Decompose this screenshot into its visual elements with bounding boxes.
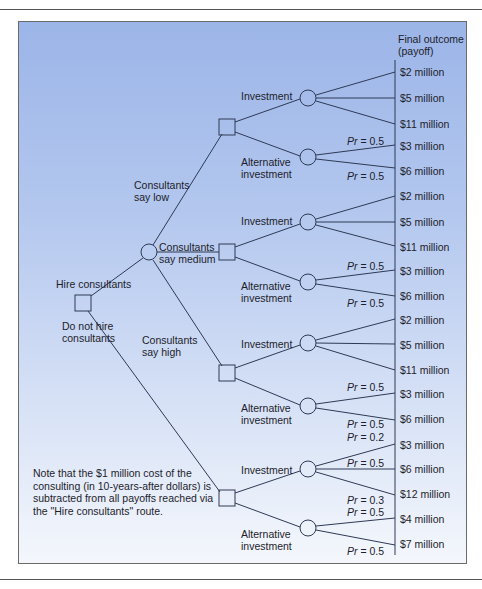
label-investment-high: Investment <box>241 338 292 350</box>
prob-low-alt-up: Pr = 0.5 <box>347 135 384 147</box>
outcome: $3 million <box>400 265 444 277</box>
chance-node-nohire-inv <box>300 461 316 477</box>
bottom-rule <box>0 579 482 580</box>
outcome: $6 million <box>400 413 444 425</box>
prob-nohire-inv-2: Pr = 0.5 <box>347 457 384 469</box>
chance-node-nohire-alt <box>300 520 316 536</box>
chance-node-med-alt <box>300 274 316 290</box>
label-alternative-high: Alternative investment <box>241 402 301 426</box>
outcome: $2 million <box>400 314 444 326</box>
prob-low-alt-down: Pr = 0.5 <box>347 170 384 182</box>
prob-med-alt-up: Pr = 0.5 <box>347 260 384 272</box>
outcome: $5 million <box>400 216 444 228</box>
label-hire-consultants: Hire consultants <box>56 278 131 290</box>
outcome: $5 million <box>400 339 444 351</box>
prob-high-alt-up: Pr = 0.5 <box>347 381 384 393</box>
outcome: $2 million <box>400 66 444 78</box>
chance-node-med-inv <box>300 214 316 230</box>
cost-note: Note that the $1 million cost of the con… <box>33 467 223 517</box>
outcome: $6 million <box>400 165 444 177</box>
outcome-header-subtitle: (payoff) <box>398 45 433 57</box>
outcome: $11 million <box>400 118 449 130</box>
outcome: $11 million <box>400 364 449 376</box>
outcome: $3 million <box>400 140 444 152</box>
outcome: $3 million <box>400 388 444 400</box>
outcome: $5 million <box>400 92 444 104</box>
label-do-not-hire: Do not hire consultants <box>62 320 132 344</box>
outcome: $6 million <box>400 463 444 475</box>
label-alternative-medium: Alternative investment <box>241 280 301 304</box>
outcome-header-title: Final outcome <box>398 33 464 45</box>
chance-node-low-inv <box>300 90 316 106</box>
outcome: $11 million <box>400 241 449 253</box>
outcome: $6 million <box>400 290 444 302</box>
label-investment-medium: Investment <box>241 215 292 227</box>
outcome: $4 million <box>400 513 444 525</box>
chance-node-low-alt <box>300 149 316 165</box>
prob-nohire-inv-1: Pr = 0.2 <box>347 431 384 443</box>
prob-nohire-alt-down: Pr = 0.5 <box>347 545 384 557</box>
prob-nohire-inv-3: Pr = 0.3 <box>347 494 384 506</box>
outcome: $7 million <box>400 538 444 550</box>
prob-med-alt-down: Pr = 0.5 <box>347 297 384 309</box>
label-alternative-no-hire: Alternative investment <box>241 528 301 552</box>
chance-node-high-alt <box>300 398 316 414</box>
label-alternative-low: Alternative investment <box>241 156 301 180</box>
decision-node-high <box>219 365 235 381</box>
outcome: $2 million <box>400 190 444 202</box>
chance-node-high-inv <box>300 335 316 351</box>
label-investment-low: Investment <box>241 90 292 102</box>
decision-node-low <box>219 119 235 135</box>
prob-nohire-alt-up: Pr = 0.5 <box>347 506 384 518</box>
outcome: $12 million <box>400 488 450 500</box>
root-decision-node <box>75 295 91 311</box>
label-say-low: Consultants say low <box>134 179 204 203</box>
consultant-chance-node <box>141 244 157 260</box>
label-investment-no-hire: Investment <box>241 464 292 476</box>
label-say-high: Consultants say high <box>142 334 212 358</box>
prob-high-alt-down: Pr = 0.5 <box>347 418 384 430</box>
label-say-medium: Consultants say medium <box>159 241 227 265</box>
outcome: $3 million <box>400 439 444 451</box>
